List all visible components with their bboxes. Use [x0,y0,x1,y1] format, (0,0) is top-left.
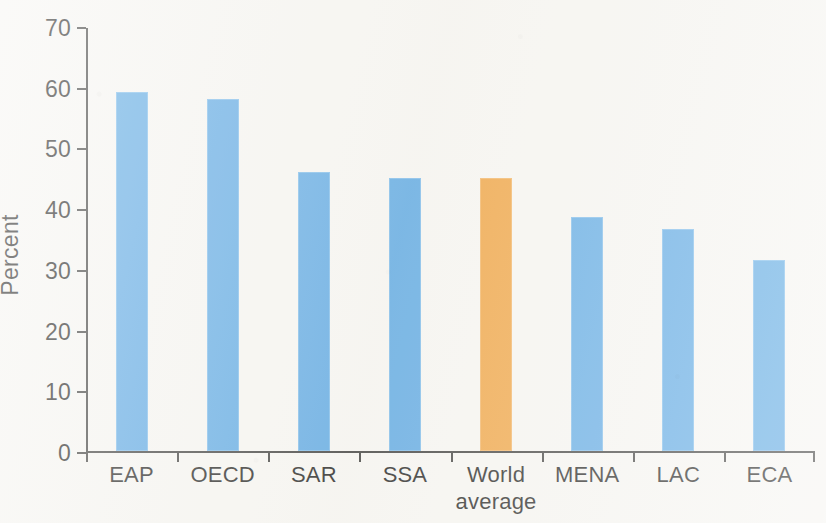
y-tick-label-30: 30 [45,257,71,284]
bar-lac [662,229,694,451]
x-category-label-sar: SAR [291,461,337,488]
y-tick-label-70: 70 [45,15,71,42]
x-tick-6 [633,453,635,462]
y-tick-label-0: 0 [58,440,71,467]
bar-eap [116,92,148,451]
y-tick-30 [77,270,86,272]
y-tick-40 [77,209,86,211]
bar-sar [298,172,330,451]
bar-oecd [207,99,239,451]
x-tick-7 [724,453,726,462]
y-tick-50 [77,148,86,150]
y-tick-label-60: 60 [45,75,71,102]
x-tick-8 [813,453,815,462]
y-tick-label-50: 50 [45,136,71,163]
x-category-label-eca: ECA [747,461,793,488]
x-tick-1 [177,453,179,462]
y-tick-label-40: 40 [45,197,71,224]
y-tick-70 [77,27,86,29]
y-tick-10 [77,391,86,393]
y-tick-60 [77,88,86,90]
x-category-label-lac: LAC [657,461,700,488]
x-category-label-eap: EAP [109,461,154,488]
x-category-label-ssa: SSA [383,461,428,488]
bars-layer [86,28,815,453]
plot-area: 010203040506070 [86,28,815,453]
y-tick-0 [77,452,86,454]
bar-chart-figure: Percent 010203040506070 EAPOECDSARSSAWor… [0,0,826,523]
x-category-label-oecd: OECD [191,461,255,488]
bar-mena [571,217,603,451]
x-tick-0 [86,453,88,462]
x-category-label-mena: MENA [555,461,619,488]
y-axis-title: Percent [0,214,24,295]
y-tick-label-20: 20 [45,318,71,345]
y-tick-label-10: 10 [45,379,71,406]
bar-eca [753,260,785,451]
bar-world-average [480,178,512,451]
x-tick-4 [451,453,453,462]
y-tick-20 [77,331,86,333]
x-category-label-world-average: World average [456,461,537,515]
x-tick-5 [542,453,544,462]
bar-ssa [389,178,421,451]
x-tick-2 [268,453,270,462]
x-tick-3 [359,453,361,462]
